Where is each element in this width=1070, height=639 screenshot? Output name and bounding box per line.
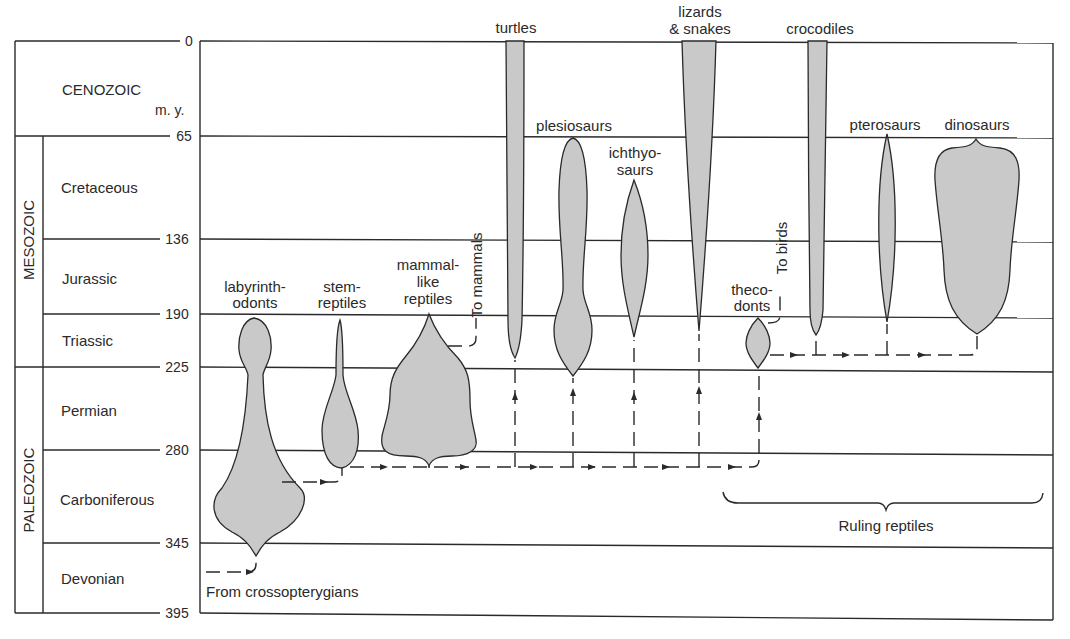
time-axis: 0 65 136 190 225 280 345 395 m. y.	[155, 33, 193, 621]
period-cretaceous: Cretaceous	[61, 179, 138, 196]
reptile-evolution-diagram: 0 65 136 190 225 280 345 395 m. y. CENOZ…	[0, 0, 1070, 639]
mammal-like-reptiles-shape	[382, 314, 477, 466]
label-labyrinthodonts-1: labyrinth-	[224, 278, 286, 295]
period-triassic: Triassic	[62, 332, 114, 349]
label-thecodonts-2: donts	[734, 297, 771, 314]
label-lizards-2: & snakes	[669, 20, 731, 37]
label-ichthyosaurs-1: ichthyo-	[609, 144, 662, 161]
lizards-snakes-shape	[682, 41, 716, 331]
label-mammal-like-3: reptiles	[404, 290, 452, 307]
era-paleozoic: PALEOZOIC	[20, 447, 37, 532]
era-cenozoic: CENOZOIC	[62, 81, 141, 98]
label-origin: From crossopterygians	[206, 583, 359, 600]
stem-reptiles-shape	[322, 320, 358, 468]
label-mammal-like-2: like	[417, 273, 440, 290]
period-devonian: Devonian	[61, 570, 124, 587]
label-to-birds: To birds	[773, 222, 790, 275]
label-ruling-reptiles: Ruling reptiles	[838, 517, 933, 534]
period-carboniferous: Carboniferous	[60, 491, 154, 508]
label-ichthyosaurs-2: saurs	[617, 161, 654, 178]
thecodonts-shape	[746, 318, 770, 368]
plesiosaurs-shape	[554, 138, 592, 376]
tick-395: 395	[165, 605, 189, 621]
period-jurassic: Jurassic	[62, 270, 118, 287]
turtles-shape	[506, 41, 524, 358]
label-mammal-like-1: mammal-	[397, 256, 460, 273]
labyrinthodonts-shape	[214, 318, 304, 556]
tick-136: 136	[165, 231, 189, 247]
ruling-reptiles-brace	[723, 492, 1043, 510]
period-permian: Permian	[61, 402, 117, 419]
dinosaurs-shape	[935, 139, 1019, 334]
label-pterosaurs: pterosaurs	[850, 116, 921, 133]
crocodiles-shape	[808, 41, 827, 335]
label-plesiosaurs: plesiosaurs	[536, 117, 612, 134]
label-lizards-1: lizards	[678, 3, 721, 20]
tick-0: 0	[185, 33, 193, 49]
label-labyrinthodonts-2: odonts	[232, 294, 277, 311]
axis-unit: m. y.	[155, 102, 184, 118]
tick-225: 225	[165, 359, 189, 375]
label-dinosaurs: dinosaurs	[944, 116, 1009, 133]
tick-65: 65	[176, 128, 192, 144]
geologic-labels: CENOZOIC MESOZOIC PALEOZOIC Cretaceous J…	[20, 81, 154, 587]
label-crocodiles: crocodiles	[786, 20, 854, 37]
label-turtles: turtles	[496, 19, 537, 36]
ichthyosaurs-shape	[621, 180, 648, 337]
label-stem-reptiles-1: stem-	[323, 278, 361, 295]
tick-280: 280	[165, 442, 189, 458]
tick-190: 190	[165, 306, 189, 322]
label-thecodonts-1: theco-	[731, 281, 773, 298]
label-to-mammals: To mammals	[468, 232, 485, 317]
pterosaurs-shape	[879, 134, 895, 322]
tick-345: 345	[165, 535, 189, 551]
label-stem-reptiles-2: reptiles	[318, 294, 366, 311]
era-mesozoic: MESOZOIC	[20, 200, 37, 280]
